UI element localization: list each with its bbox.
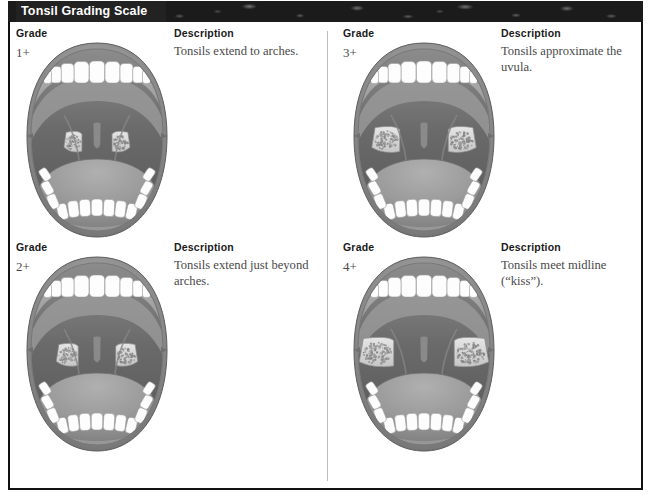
mouth-illustration-3-plus — [351, 31, 497, 246]
description-column-header: Description — [174, 241, 234, 253]
figure-title-bar: Tonsil Grading Scale — [8, 1, 643, 22]
description-text: Tonsils meet midline (“kiss”). — [501, 257, 651, 289]
tonsil-grading-figure: Tonsil Grading Scale Grade Description 1… — [0, 0, 651, 499]
grade-panel-2-plus: Grade Description 2+ Tonsils extend just… — [10, 237, 325, 467]
mouth-illustration-4-plus — [351, 245, 497, 460]
description-text: Tonsils approximate the uvula. — [501, 43, 651, 75]
description-text: Tonsils extend to arches. — [174, 43, 324, 59]
description-column-header: Description — [501, 241, 561, 253]
grade-panel-1-plus: Grade Description 1+ Tonsils extend to a… — [10, 23, 325, 253]
mouth-illustration-1-plus — [24, 31, 170, 246]
grade-panel-3-plus: Grade Description 3+ Tonsils approximate… — [337, 23, 651, 253]
figure-title: Tonsil Grading Scale — [21, 4, 147, 18]
description-column-header: Description — [174, 27, 234, 39]
description-column-header: Description — [501, 27, 561, 39]
mouth-illustration-2-plus — [24, 245, 170, 460]
grade-panel-4-plus: Grade Description 4+ Tonsils meet midlin… — [337, 237, 651, 467]
column-divider — [327, 31, 328, 481]
description-text: Tonsils extend just beyond arches. — [174, 257, 324, 289]
figure-content: Grade Description 1+ Tonsils extend to a… — [10, 23, 641, 488]
